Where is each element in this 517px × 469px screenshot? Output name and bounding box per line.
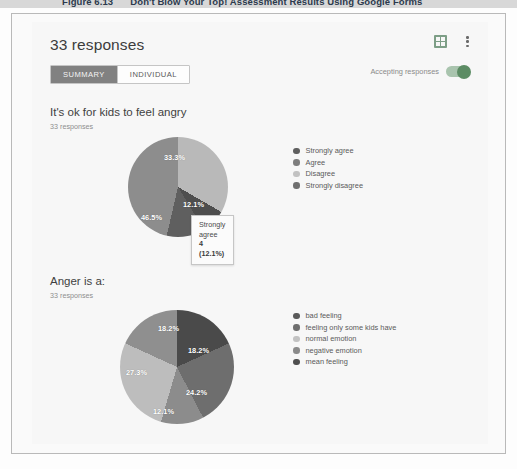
legend-dot-icon: [293, 347, 300, 354]
pie-chart-1[interactable]: 33.3% 12.1% 46.5% Strongly agree 4 (12.1…: [128, 137, 234, 243]
legend-item[interactable]: normal emotion: [293, 333, 396, 345]
header-actions: [434, 35, 474, 48]
legend-item[interactable]: Disagree: [293, 168, 363, 180]
figure-caption-text: Don't Blow Your Top! Assessment Results …: [130, 0, 422, 7]
pie-1-tooltip-value: 4 (12.1%): [199, 239, 226, 258]
question-2-title: Anger is a:: [50, 275, 470, 287]
legend-dot-icon: [293, 159, 300, 166]
question-2-chart-row: 18.2% 18.2% 24.2% 12.1% 27.3% bad feelin…: [50, 304, 470, 432]
page-root: Figure 6.13 Don't Blow Your Top! Assessm…: [0, 0, 517, 469]
figure-caption-bar: Figure 6.13 Don't Blow Your Top! Assessm…: [0, 0, 517, 8]
question-1-response-count: 33 responses: [50, 122, 470, 131]
form-header: 33 responses: [32, 22, 488, 54]
tab-individual[interactable]: INDIVIDUAL: [117, 66, 189, 83]
question-1-chart-row: 33.3% 12.1% 46.5% Strongly agree 4 (12.1…: [50, 135, 470, 253]
legend-item[interactable]: feeling only some kids have: [293, 322, 396, 334]
pie-chart-2[interactable]: 18.2% 18.2% 24.2% 12.1% 27.3%: [120, 310, 238, 428]
legend-label: normal emotion: [306, 334, 357, 343]
spreadsheet-icon[interactable]: [434, 35, 447, 48]
accepting-responses-control[interactable]: Accepting responses: [370, 66, 470, 77]
pie-2-label-negative-emotion: 27.3%: [126, 368, 147, 377]
pie-1-legend: Strongly agree Agree Disagree Stron: [293, 145, 363, 191]
toggle-knob: [457, 65, 471, 79]
legend-label: Agree: [306, 158, 326, 167]
tab-summary[interactable]: SUMMARY: [51, 66, 117, 83]
pie-1-label-strongly-agree: 12.1%: [183, 200, 204, 209]
google-form-responses-card: 33 responses SUMMARY INDIVIDUAL: [32, 22, 488, 444]
view-tabs: SUMMARY INDIVIDUAL: [50, 65, 190, 84]
legend-dot-icon: [293, 148, 300, 155]
pie-1-tooltip-label: Strongly agree: [199, 220, 226, 239]
more-vertical-icon[interactable]: [461, 35, 474, 48]
kebab-dot: [466, 40, 468, 42]
legend-label: negative emotion: [306, 346, 362, 355]
kebab-dot: [466, 36, 468, 38]
legend-dot-icon: [293, 336, 300, 343]
legend-dot-icon: [293, 182, 300, 189]
pie-1-tooltip: Strongly agree 4 (12.1%): [191, 215, 234, 265]
question-block-1: It's ok for kids to feel angry 33 respon…: [50, 106, 470, 253]
question-2-response-count: 33 responses: [50, 291, 470, 300]
pie-2-label-mean-feeling: 18.2%: [188, 346, 209, 355]
question-1-title: It's ok for kids to feel angry: [50, 106, 470, 118]
legend-item[interactable]: bad feeling: [293, 310, 396, 322]
pie-2-legend: bad feeling feeling only some kids have …: [293, 310, 396, 368]
pie-2-label-normal-emotion: 12.1%: [153, 407, 174, 416]
accepting-responses-toggle[interactable]: [446, 66, 470, 77]
legend-dot-icon: [293, 359, 300, 366]
legend-item[interactable]: Agree: [293, 157, 363, 169]
legend-dot-icon: [293, 171, 300, 178]
question-block-2: Anger is a: 33 responses 18.2% 18.2% 24.…: [50, 275, 470, 432]
legend-label: mean feeling: [306, 357, 348, 366]
legend-item[interactable]: negative emotion: [293, 345, 396, 357]
legend-label: bad feeling: [306, 311, 342, 320]
spreadsheet-icon-grid: [436, 41, 445, 42]
kebab-dot: [466, 45, 468, 47]
figure-frame: 33 responses SUMMARY INDIVIDUAL: [11, 13, 506, 454]
legend-label: Strongly disagree: [306, 181, 364, 190]
pie-1-label-disagree: 46.5%: [141, 213, 162, 222]
accepting-responses-label: Accepting responses: [370, 67, 439, 76]
legend-item[interactable]: Strongly agree: [293, 145, 363, 157]
legend-dot-icon: [293, 324, 300, 331]
legend-dot-icon: [293, 313, 300, 320]
responses-count-title: 33 responses: [50, 36, 470, 54]
pie-2-label-feeling-only-some: 24.2%: [186, 388, 207, 397]
legend-item[interactable]: Strongly disagree: [293, 180, 363, 192]
pie-2-label-bad-feeling: 18.2%: [158, 324, 179, 333]
legend-label: Strongly agree: [306, 146, 354, 155]
legend-label: Disagree: [306, 169, 336, 178]
figure-number: Figure 6.13: [62, 0, 113, 7]
legend-item[interactable]: mean feeling: [293, 356, 396, 368]
form-tab-row: SUMMARY INDIVIDUAL Accepting responses: [50, 65, 470, 84]
legend-label: feeling only some kids have: [306, 323, 397, 332]
pie-1-label-agree: 33.3%: [164, 153, 185, 162]
